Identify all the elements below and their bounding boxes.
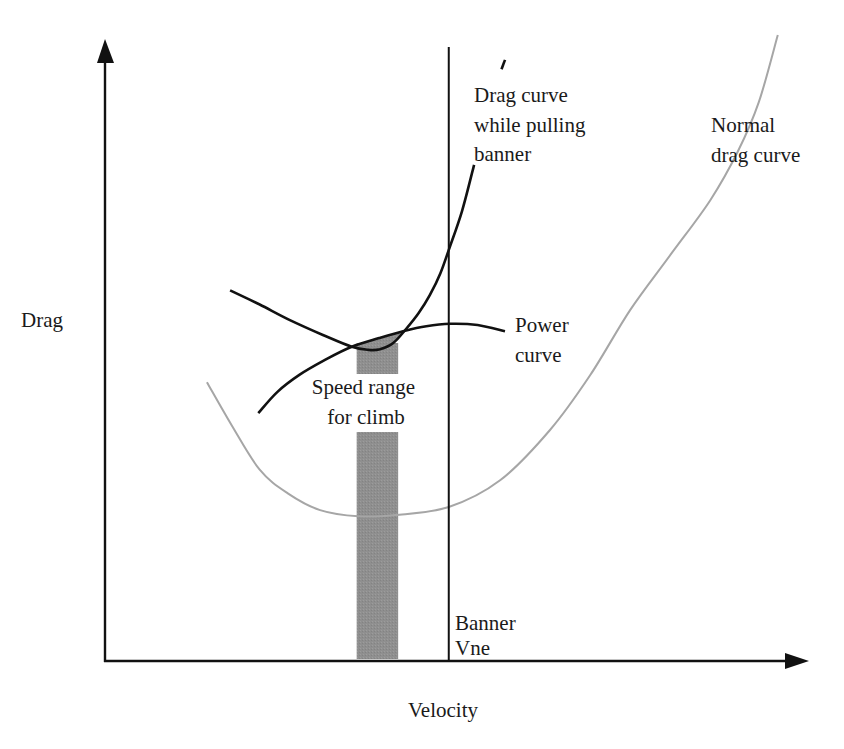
- power-curve-label: Power curve: [515, 313, 574, 367]
- speed-range-label: Speed range for climb: [312, 375, 420, 429]
- normal-drag-curve: [207, 35, 778, 517]
- vne-label-line-2: Vne: [455, 636, 490, 660]
- banner-drag-curve-label: Drag curve while pulling banner: [474, 83, 591, 166]
- banner-drag-curve: [230, 165, 474, 350]
- banner-vne-label: Banner Vne: [455, 611, 521, 660]
- power-label-line-2: curve: [515, 343, 562, 367]
- vne-label-line-1: Banner: [455, 611, 516, 635]
- y-axis-label: Drag: [21, 308, 63, 332]
- climb-band-upper: [357, 343, 398, 374]
- normal-drag-curve-label: Normal drag curve: [711, 113, 800, 167]
- x-axis-arrowhead: [785, 653, 809, 669]
- banner-drag-curve-continuation: [501, 60, 505, 69]
- banner-drag-label-line-2: while pulling: [474, 113, 586, 137]
- banner-drag-label-line-1: Drag curve: [474, 83, 568, 107]
- normal-drag-label-line-2: drag curve: [711, 143, 800, 167]
- normal-drag-label-line-1: Normal: [711, 113, 775, 137]
- x-axis-label: Velocity: [408, 698, 478, 722]
- y-axis-arrowhead: [97, 39, 114, 63]
- speed-range-label-line-2: for climb: [327, 405, 405, 429]
- power-label-line-1: Power: [515, 313, 569, 337]
- drag-velocity-diagram: Drag Velocity Drag curve while pulling b…: [0, 0, 844, 749]
- banner-drag-label-line-3: banner: [474, 142, 531, 166]
- climb-band-lower: [357, 432, 398, 659]
- speed-range-label-line-1: Speed range: [312, 375, 415, 399]
